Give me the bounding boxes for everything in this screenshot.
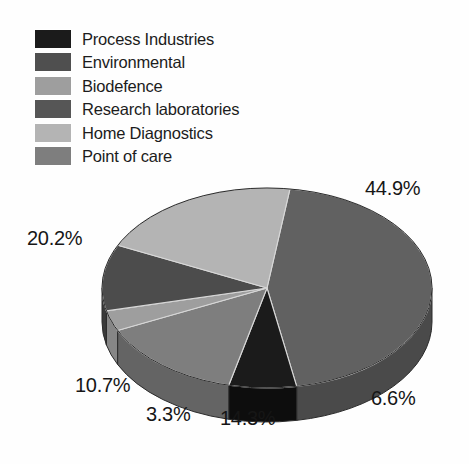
slice-value-point-of-care: 14.3% — [220, 408, 275, 428]
pie-chart-figure: Process Industries Environmental Biodefe… — [0, 0, 469, 464]
slice-value-home-diagnostics: 20.2% — [27, 228, 82, 248]
slice-value-environmental: 44.9% — [365, 178, 420, 198]
slice-value-process-industries: 6.6% — [371, 388, 415, 408]
slice-value-biodefence: 3.3% — [146, 404, 190, 424]
pie-top-faces — [102, 188, 432, 388]
slice-value-research-laboratories: 10.7% — [75, 375, 130, 395]
